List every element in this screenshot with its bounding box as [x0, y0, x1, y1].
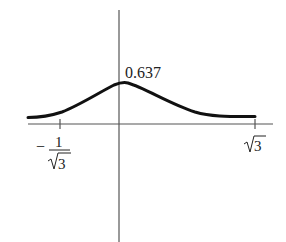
- tick-left-denominator: 3: [58, 156, 66, 172]
- peak-label: 0.637: [125, 64, 161, 81]
- tick-right-value: 3: [254, 138, 262, 154]
- tick-label-neg-inv-sqrt3: − 1 3: [36, 134, 71, 172]
- tick-left-sign: −: [36, 138, 45, 155]
- curve-line: [28, 83, 255, 118]
- tick-left-numerator: 1: [55, 134, 63, 150]
- chart: 0.637 − 1 3 3: [0, 0, 286, 242]
- tick-label-sqrt3: 3: [244, 136, 266, 154]
